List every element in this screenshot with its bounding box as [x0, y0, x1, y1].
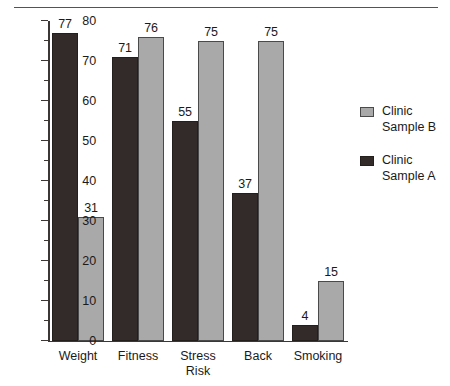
y-tick-major	[41, 300, 48, 301]
y-tick-minor	[44, 120, 49, 121]
bar-value-label: 76	[131, 22, 171, 35]
bar	[232, 193, 258, 341]
y-tick-major	[41, 180, 48, 181]
bar	[172, 121, 198, 341]
bar-value-label: 31	[71, 202, 111, 215]
y-tick-minor	[44, 160, 49, 161]
y-tick-major	[41, 260, 48, 261]
bar	[198, 41, 224, 341]
y-tick-label: 60	[82, 95, 96, 108]
bar	[78, 217, 104, 341]
y-tick-label: 20	[82, 255, 96, 268]
legend-swatch-icon	[360, 107, 374, 117]
bar	[112, 57, 138, 341]
y-tick-major	[41, 100, 48, 101]
bar-value-label: 75	[251, 26, 291, 39]
y-tick-label: 50	[82, 135, 96, 148]
y-tick-label: 40	[82, 175, 96, 188]
y-tick-minor	[44, 320, 49, 321]
y-tick-label: 30	[82, 215, 96, 228]
y-tick-major	[41, 220, 48, 221]
legend-item[interactable]: Clinic Sample B	[360, 104, 446, 136]
bar	[292, 325, 318, 341]
y-tick-minor	[44, 40, 49, 41]
bar-value-label: 75	[191, 26, 231, 39]
legend-label: Clinic Sample A	[382, 153, 436, 184]
category-label: Smoking	[278, 349, 358, 364]
legend-label: Clinic Sample B	[382, 104, 436, 135]
bar-value-label: 15	[311, 266, 351, 279]
y-tick-label: 80	[82, 15, 96, 28]
bar	[138, 37, 164, 341]
y-tick-label: 0	[89, 335, 96, 348]
top-horizontal-rule	[14, 7, 438, 8]
y-tick-major	[41, 340, 48, 341]
y-tick-major	[41, 140, 48, 141]
y-tick-minor	[44, 280, 49, 281]
legend-item[interactable]: Clinic Sample A	[360, 153, 446, 185]
bar	[52, 33, 78, 341]
y-tick-minor	[44, 200, 49, 201]
y-tick-label: 10	[82, 295, 96, 308]
y-tick-minor	[44, 80, 49, 81]
bar	[318, 281, 344, 341]
bar	[258, 41, 284, 341]
bar-chart-figure: 7731717655753775415 01020304050607080 We…	[0, 0, 450, 386]
chart-legend: Clinic Sample BClinic Sample A	[360, 104, 446, 202]
y-tick-major	[41, 60, 48, 61]
y-tick-minor	[44, 240, 49, 241]
y-tick-label: 70	[82, 55, 96, 68]
bar-value-label: 77	[45, 18, 85, 31]
legend-swatch-icon	[360, 156, 374, 166]
y-axis-line	[48, 21, 50, 342]
